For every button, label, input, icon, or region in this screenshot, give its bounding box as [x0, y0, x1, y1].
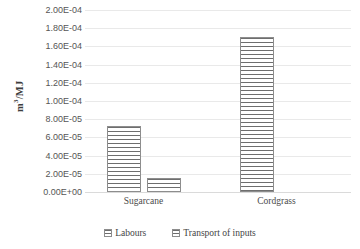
y-axis-tick-label: 2.00E-05: [45, 169, 82, 179]
x-axis-category-labels: SugarcaneCordgrass: [85, 196, 351, 214]
bar-chart: m3/MJ 0.00E+002.00E-054.00E-056.00E-058.…: [0, 0, 360, 249]
y-axis-tick-label: 1.60E-04: [45, 41, 82, 51]
y-axis-tick-label: 2.00E-04: [45, 5, 82, 15]
y-axis-tick-labels: 0.00E+002.00E-054.00E-056.00E-058.00E-05…: [26, 10, 82, 192]
bars-layer: [85, 10, 351, 192]
legend-label: Labours: [115, 228, 146, 238]
y-axis-tick-label: 0.00E+00: [43, 187, 82, 197]
y-axis-title-text: m3/MJ: [13, 80, 26, 111]
y-axis-tick-label: 4.00E-05: [45, 151, 82, 161]
y-axis-tick-label: 1.40E-04: [45, 60, 82, 70]
y-axis-tick-label: 1.20E-04: [45, 78, 82, 88]
bar-labours-cordgrass[interactable]: [240, 37, 274, 192]
bar-labours-sugarcane[interactable]: [107, 126, 141, 192]
bar-transport-of-inputs-sugarcane[interactable]: [147, 178, 181, 192]
y-axis-tick-label: 8.00E-05: [45, 114, 82, 124]
legend-swatch-icon: [172, 229, 180, 237]
x-axis-label-sugarcane: Sugarcane: [124, 196, 164, 206]
axis-baseline: [85, 192, 351, 193]
y-axis-tick-label: 1.00E-04: [45, 96, 82, 106]
legend-swatch-icon: [104, 229, 112, 237]
y-axis-tick-label: 1.80E-04: [45, 23, 82, 33]
plot-area: [85, 10, 351, 192]
legend-item-labours[interactable]: Labours: [104, 228, 146, 238]
x-axis-label-cordgrass: Cordgrass: [257, 196, 296, 206]
legend-item-transport-of-inputs[interactable]: Transport of inputs: [172, 228, 256, 238]
y-axis-tick-label: 6.00E-05: [45, 132, 82, 142]
legend-label: Transport of inputs: [183, 228, 256, 238]
chart-legend: LaboursTransport of inputs: [0, 224, 360, 242]
